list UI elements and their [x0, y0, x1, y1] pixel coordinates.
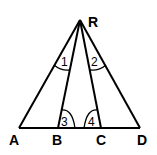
segment-RA [19, 20, 80, 128]
angle-1-label: 1 [61, 55, 68, 69]
angle-2-label: 2 [91, 55, 98, 69]
angle-4-label: 4 [88, 115, 95, 129]
point-B-label: B [52, 132, 62, 148]
segment-RD [80, 20, 140, 128]
point-A-label: A [9, 132, 19, 148]
angle-3-label: 3 [61, 115, 68, 129]
point-D-label: D [137, 132, 147, 148]
point-C-label: C [96, 132, 106, 148]
point-R-label: R [88, 14, 98, 30]
geometry-diagram: 1 2 3 4 R A B C D [0, 0, 157, 155]
